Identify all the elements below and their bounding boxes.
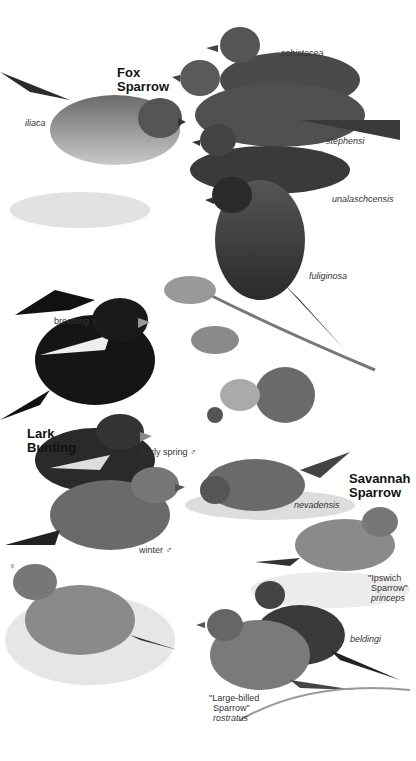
species-title-lark-bunting: Lark Bunting [27, 427, 76, 455]
title-line-1: Savannah [349, 472, 410, 486]
label-winter-male: winter ♂ [139, 545, 172, 555]
label-schistacea: schistacea [281, 48, 324, 58]
lark-bunting-illustration [0, 290, 185, 685]
label-nevadensis: nevadensis [294, 500, 340, 510]
species-title-savannah-sparrow: Savannah Sparrow [349, 472, 410, 500]
fox-sparrow-group-illustration [164, 27, 400, 423]
title-line-1: Lark [27, 427, 76, 441]
fox-sparrow-iliaca-illustration [0, 72, 186, 228]
bird-illustrations [0, 0, 416, 761]
label-breeding-male: breeding ♂ [54, 316, 98, 326]
largebilled-line-2: Sparrow" [209, 703, 259, 713]
ipswich-line-1: "Ipswich [368, 573, 408, 583]
title-line-2: Sparrow [349, 486, 410, 500]
largebilled-line-3: rostratus [209, 713, 259, 723]
label-unalaschcensis: unalaschcensis [332, 194, 394, 204]
title-line-1: Fox [117, 66, 169, 80]
ipswich-line-2: Sparrow" [368, 583, 408, 593]
label-stephensi: stephensi [326, 136, 365, 146]
label-large-billed-sparrow: "Large-billed Sparrow" rostratus [209, 693, 259, 723]
label-beldingi: beldingi [350, 634, 381, 644]
largebilled-line-1: "Large-billed [209, 693, 259, 703]
field-guide-plate: Fox Sparrow iliaca schistacea stephensi … [0, 0, 416, 761]
label-early-spring-male: early spring ♂ [141, 447, 197, 457]
label-female: ♀ [9, 561, 16, 571]
title-line-2: Sparrow [117, 80, 169, 94]
label-fuliginosa: fuliginosa [309, 271, 347, 281]
ipswich-line-3: princeps [368, 593, 408, 603]
label-ipswich-sparrow: "Ipswich Sparrow" princeps [368, 573, 408, 603]
title-line-2: Bunting [27, 441, 76, 455]
species-title-fox-sparrow: Fox Sparrow [117, 66, 169, 94]
label-iliaca: iliaca [25, 118, 46, 128]
